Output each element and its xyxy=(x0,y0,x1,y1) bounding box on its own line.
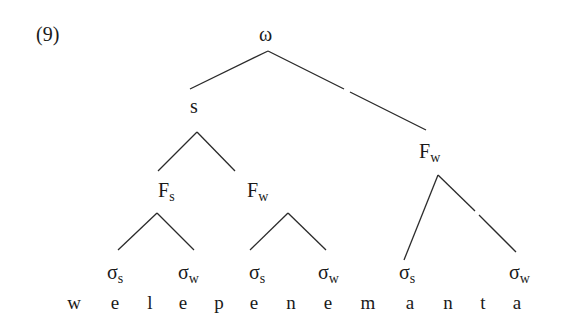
branch-fw-right-left xyxy=(404,175,438,260)
branch-fs-left xyxy=(118,213,157,250)
branch-fs-right xyxy=(157,213,194,250)
branch-fw-right-right-a xyxy=(438,175,475,211)
branch-fw-mid-left xyxy=(250,213,288,250)
branch-s-fs xyxy=(158,132,197,171)
branch-fw-right-right-b xyxy=(479,215,516,252)
branch-fw-mid-right xyxy=(288,213,326,250)
branch-omega-fw-a xyxy=(268,51,344,89)
tree-branches xyxy=(0,0,567,335)
branch-omega-fw-b xyxy=(350,92,426,130)
branch-s-fw xyxy=(197,132,235,171)
branch-omega-s xyxy=(190,51,268,89)
